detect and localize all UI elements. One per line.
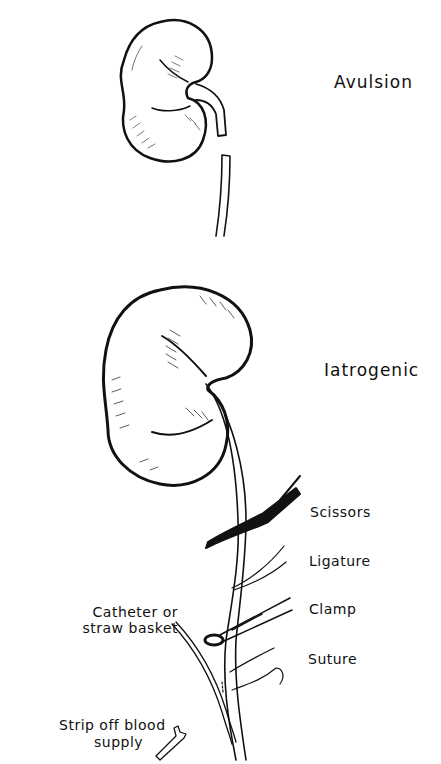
catheter-label-line1: Catheter or (60, 604, 178, 620)
iatrogenic-title: Iatrogenic (324, 360, 419, 380)
ligature-drawing (232, 546, 286, 590)
avulsion-kidney-drawing (121, 20, 230, 236)
clamp-label: Clamp (309, 601, 356, 617)
scissors-drawing (206, 476, 300, 548)
illustration-canvas (0, 0, 441, 764)
ligature-label: Ligature (309, 553, 371, 569)
suture-label: Suture (308, 651, 357, 667)
suture-drawing (222, 648, 283, 692)
strip-label-line2: supply (94, 734, 143, 750)
iatrogenic-kidney-drawing (103, 287, 251, 760)
catheter-label-line2: straw basket (56, 620, 178, 636)
avulsion-title: Avulsion (334, 72, 413, 92)
scissors-label: Scissors (310, 504, 371, 520)
strip-label-line1: Strip off blood (59, 717, 166, 733)
clamp-drawing (205, 598, 292, 645)
